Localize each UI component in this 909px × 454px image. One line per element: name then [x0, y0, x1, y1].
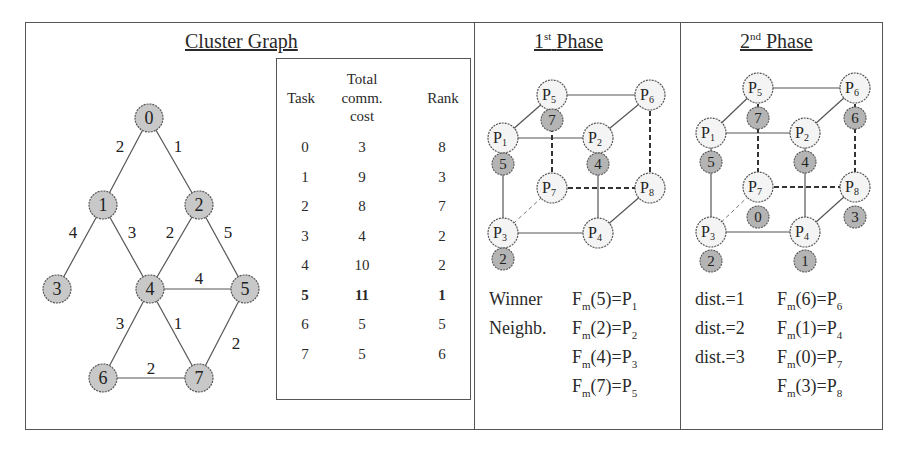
edge-0-2 [149, 118, 199, 205]
task-node-label: 3 [53, 279, 62, 299]
mapping-formula: Fm(0)=P7 [777, 347, 842, 370]
caption-label: dist.=1 [695, 289, 745, 310]
table-cell-task: 4 [285, 257, 325, 274]
edge-0-1 [103, 118, 149, 205]
task-node-label: 0 [145, 108, 154, 128]
edge-weight: 1 [174, 137, 183, 156]
edge-weight: 4 [195, 269, 204, 288]
task-node-label: 4 [146, 279, 155, 299]
task-node-label: 6 [99, 368, 108, 388]
table-cell-rank: 1 [422, 287, 462, 304]
edge-weight: 2 [166, 223, 175, 242]
table-cell-cost: 10 [342, 257, 382, 274]
mapping-formula: Fm(6)=P6 [777, 289, 842, 312]
task-label: 4 [594, 156, 602, 172]
table-cell-rank: 6 [422, 346, 462, 363]
mapping-formula: Fm(4)=P3 [572, 347, 637, 370]
table-cell-rank: 2 [422, 257, 462, 274]
task-label: 3 [851, 209, 859, 225]
rank-table: Task Total comm. cost Rank 0381932873424… [276, 58, 471, 400]
table-cell-rank: 3 [422, 169, 462, 186]
table-cell-cost: 5 [342, 346, 382, 363]
mapping-formula: Fm(7)=P5 [572, 376, 637, 399]
task-node-label: 5 [241, 279, 250, 299]
table-cell-task: 2 [285, 198, 325, 215]
task-label: 2 [499, 251, 507, 267]
edge-4-7 [150, 289, 199, 378]
header-task: Task [281, 90, 321, 107]
caption-label: dist.=3 [695, 347, 745, 368]
table-cell-cost: 11 [342, 287, 382, 304]
table-cell-cost: 3 [342, 139, 382, 156]
edge-weight: 3 [116, 314, 125, 333]
header-comm: comm. [327, 90, 397, 107]
table-cell-task: 5 [285, 287, 325, 304]
header-rank: Rank [418, 90, 468, 107]
table-cell-task: 3 [285, 228, 325, 245]
mapping-formula: Fm(3)=P8 [777, 376, 842, 399]
edge-weight: 2 [116, 137, 125, 156]
table-cell-rank: 8 [422, 139, 462, 156]
caption-label: dist.=2 [695, 318, 745, 339]
task-label: 7 [548, 112, 556, 128]
table-cell-task: 6 [285, 316, 325, 333]
task-node-label: 2 [195, 195, 204, 215]
table-cell-rank: 5 [422, 316, 462, 333]
mapping-formula: Fm(1)=P4 [777, 318, 842, 341]
task-label: 5 [707, 154, 715, 170]
edge-weight: 2 [232, 334, 241, 353]
table-cell-task: 7 [285, 346, 325, 363]
caption-label: Winner [489, 289, 542, 310]
mapping-formula: Fm(2)=P2 [572, 318, 637, 341]
table-cell-cost: 8 [342, 198, 382, 215]
table-cell-rank: 2 [422, 228, 462, 245]
task-label: 1 [801, 253, 809, 269]
task-label: 0 [754, 209, 762, 225]
table-cell-cost: 4 [342, 228, 382, 245]
edge-weight: 4 [69, 223, 78, 242]
task-node-label: 7 [195, 368, 204, 388]
table-cell-task: 0 [285, 139, 325, 156]
caption-label: Neighb. [489, 318, 547, 339]
task-node-label: 1 [99, 195, 108, 215]
header-cost: cost [327, 108, 397, 125]
edge-weight: 3 [128, 223, 137, 242]
task-label: 7 [754, 110, 762, 126]
table-cell-rank: 7 [422, 198, 462, 215]
edge-weight: 1 [174, 314, 183, 333]
task-label: 2 [707, 253, 715, 269]
edge-weight: 2 [147, 359, 156, 378]
edge-4-6 [103, 289, 150, 378]
mapping-formula: Fm(5)=P1 [572, 289, 637, 312]
header-total: Total [327, 71, 397, 88]
task-label: 4 [801, 154, 809, 170]
table-cell-cost: 5 [342, 316, 382, 333]
table-cell-cost: 9 [342, 169, 382, 186]
task-label: 5 [499, 156, 507, 172]
edge-weight: 5 [224, 223, 233, 242]
table-cell-task: 1 [285, 169, 325, 186]
task-label: 6 [851, 110, 859, 126]
